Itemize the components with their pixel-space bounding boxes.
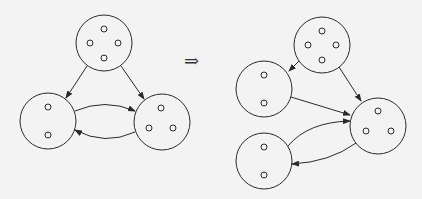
left-node-a <box>76 15 132 71</box>
right-edge-a-b1 <box>289 61 299 71</box>
left-node-b <box>20 93 76 149</box>
graph-split-diagram <box>0 0 422 199</box>
right-edge-a-c <box>339 67 361 101</box>
right-node-b1 <box>236 61 292 117</box>
right-node-b2 <box>236 133 292 189</box>
right-node-a <box>294 17 350 73</box>
left-node-c <box>134 94 190 150</box>
implies-arrow-symbol: ⇒ <box>184 52 199 70</box>
left-edge-b-c <box>75 105 135 112</box>
left-edge-a-b <box>66 66 87 98</box>
right-edge-b1-c <box>291 97 350 115</box>
left-edge-a-c <box>121 66 144 99</box>
right-edge-c-b2 <box>292 143 356 164</box>
right-node-c <box>350 98 406 154</box>
right-graph <box>236 17 406 189</box>
left-graph <box>20 15 190 150</box>
right-edge-b2-c <box>288 121 350 146</box>
left-edge-c-b <box>75 130 135 139</box>
